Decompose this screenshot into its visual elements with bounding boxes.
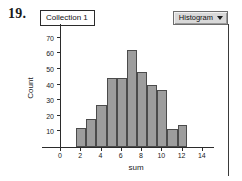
x-axis-tick	[141, 147, 142, 151]
document-right-rule	[228, 24, 229, 176]
x-axis-tick	[121, 147, 122, 151]
x-axis-tick-label: 4	[99, 152, 103, 159]
x-axis-tick	[101, 147, 102, 151]
y-axis-tick-label: 20	[46, 112, 54, 119]
x-axis-tick-label: 2	[78, 152, 82, 159]
y-axis-tick-label: 40	[46, 81, 54, 88]
x-axis-tick-label: 0	[58, 152, 62, 159]
histogram-bar	[157, 90, 167, 147]
histogram-plot-area: 10203040506070 02468101214	[60, 30, 212, 147]
y-axis-tick	[57, 52, 61, 53]
histogram-bar	[107, 78, 117, 147]
histogram-bar	[127, 50, 137, 147]
x-axis-title: sum	[60, 163, 212, 172]
collection-title-label: Collection 1	[46, 13, 88, 22]
histogram-bar	[96, 105, 106, 147]
y-axis-tick-label: 70	[46, 34, 54, 41]
y-axis-tick	[57, 84, 61, 85]
y-axis-tick	[57, 37, 61, 38]
x-axis-tick	[182, 147, 183, 151]
plot-type-label: Histogram	[179, 13, 213, 23]
y-axis-tick-label: 10	[46, 128, 54, 135]
collection-title-box[interactable]: Collection 1	[40, 10, 95, 26]
histogram-screenshot: 19. Collection 1 Histogram 1020304050607…	[0, 0, 242, 181]
question-number: 19.	[8, 6, 26, 22]
x-axis-tick-label: 14	[198, 152, 206, 159]
x-axis-tick-label: 10	[157, 152, 165, 159]
chevron-down-icon	[217, 16, 223, 20]
x-axis-tick	[60, 147, 61, 151]
histogram-bar	[117, 78, 127, 147]
histogram-bar	[76, 128, 86, 147]
x-axis-tick	[80, 147, 81, 151]
y-axis-tick	[57, 115, 61, 116]
x-axis-tick-label: 8	[139, 152, 143, 159]
y-axis-tick-label: 50	[46, 66, 54, 73]
x-axis-tick-label: 12	[178, 152, 186, 159]
histogram-bar	[137, 72, 147, 147]
y-axis-tick	[57, 68, 61, 69]
plot-type-dropdown[interactable]: Histogram	[173, 11, 228, 25]
histogram-bar	[147, 85, 157, 147]
histogram-bar	[167, 129, 177, 147]
x-axis-tick	[202, 147, 203, 151]
histogram-bars	[60, 30, 212, 147]
y-axis-tick	[57, 99, 61, 100]
y-axis-tick	[57, 130, 61, 131]
y-axis-tick-label: 60	[46, 50, 54, 57]
histogram-bar	[86, 119, 96, 147]
y-axis-title: Count	[26, 77, 35, 98]
x-axis-tick-label: 6	[119, 152, 123, 159]
y-axis-tick-label: 30	[46, 97, 54, 104]
x-axis-tick	[161, 147, 162, 151]
histogram-bar	[178, 125, 187, 147]
